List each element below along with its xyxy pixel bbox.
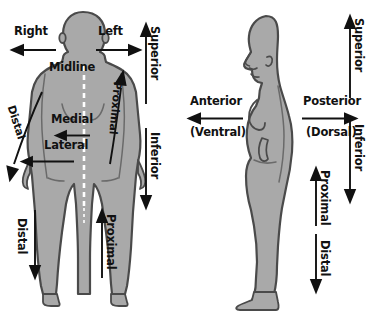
arrow-left-icon bbox=[10, 44, 58, 56]
label-leg-proximal-anterior: Proximal bbox=[105, 214, 117, 269]
label-right: Right bbox=[14, 26, 48, 38]
label-left: Left bbox=[98, 26, 123, 38]
arrow-down-icon bbox=[29, 208, 41, 280]
human-body-lateral-icon bbox=[232, 10, 322, 302]
label-inferior-anterior: Inferior bbox=[149, 132, 161, 179]
label-leg-proximal-lateral: Proximal bbox=[319, 170, 331, 225]
label-leg-distal-anterior: Distal bbox=[16, 218, 28, 254]
arrow-left-icon bbox=[187, 113, 245, 124]
label-medial: Medial bbox=[51, 114, 93, 126]
label-midline: Midline bbox=[49, 62, 95, 74]
label-superior-lateral: Superior bbox=[353, 18, 365, 72]
label-anterior: Anterior bbox=[190, 96, 242, 108]
label-lateral: Lateral bbox=[44, 140, 88, 152]
label-leg-distal-lateral: Distal bbox=[319, 240, 331, 276]
anatomical-directional-terms-diagram: Right Left Midline Medial Lateral bbox=[0, 0, 383, 312]
label-ventral: (Ventral) bbox=[190, 127, 246, 139]
label-inferior-lateral: Inferior bbox=[353, 124, 365, 171]
label-superior-anterior: Superior bbox=[149, 26, 161, 80]
arrow-right-icon bbox=[94, 44, 142, 56]
